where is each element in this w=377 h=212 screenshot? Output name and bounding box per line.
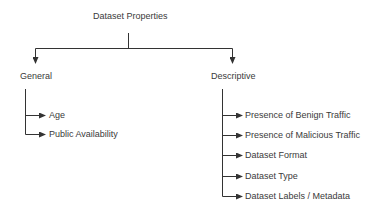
general-item-age: Age	[49, 110, 65, 121]
root-node-label: Dataset Properties	[93, 11, 168, 22]
descriptive-item-dataset-type: Dataset Type	[245, 171, 298, 182]
descriptive-item-benign-traffic: Presence of Benign Traffic	[245, 110, 350, 121]
descriptive-item-dataset-format: Dataset Format	[245, 150, 307, 161]
category-descriptive-label: Descriptive	[211, 71, 256, 82]
category-general-label: General	[20, 71, 52, 82]
descriptive-item-dataset-labels: Dataset Labels / Metadata	[245, 191, 350, 202]
connector-lines	[0, 0, 377, 212]
descriptive-item-malicious-traffic: Presence of Malicious Traffic	[245, 130, 360, 141]
general-item-public-availability: Public Availability	[49, 129, 118, 140]
